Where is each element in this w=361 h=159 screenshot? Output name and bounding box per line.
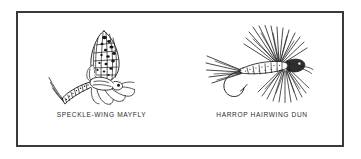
specimen-row: SPECKLE-WING MAYFLY xyxy=(19,14,341,144)
caption-harrop-hairwing-dun: HARROP HAIRWING DUN xyxy=(216,112,307,119)
specimen-speckle-wing-mayfly: SPECKLE-WING MAYFLY xyxy=(19,14,180,144)
figure-border-frame: SPECKLE-WING MAYFLY xyxy=(16,11,344,147)
harrop-hairwing-dun-icon xyxy=(203,21,319,107)
figure-panel: SPECKLE-WING MAYFLY xyxy=(0,0,361,159)
figure-inner-mat: SPECKLE-WING MAYFLY xyxy=(18,13,342,145)
caption-speckle-wing-mayfly: SPECKLE-WING MAYFLY xyxy=(57,112,147,119)
specimen-harrop-hairwing-dun: HARROP HAIRWING DUN xyxy=(180,14,341,144)
hairwing-dun-illustration-container xyxy=(180,18,341,110)
speckle-wing-mayfly-icon xyxy=(46,21,154,107)
mayfly-illustration-container xyxy=(19,18,180,110)
